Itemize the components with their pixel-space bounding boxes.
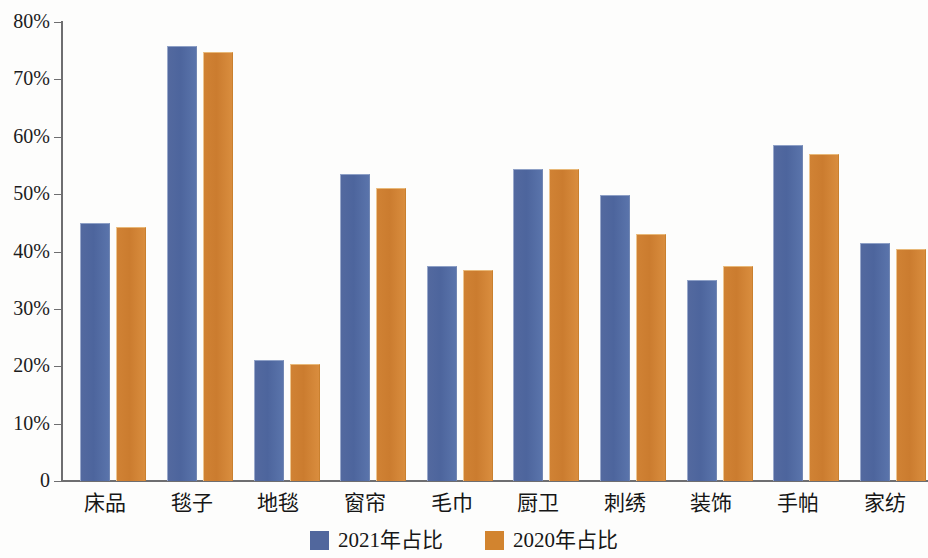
legend-item-2[interactable]: 2020年占比	[485, 528, 618, 552]
bar-series-2020[interactable]	[636, 234, 666, 481]
legend-item-1[interactable]: 2021年占比	[310, 528, 443, 552]
bar-series-2021[interactable]	[340, 174, 370, 481]
x-axis-label-8: 装饰	[668, 488, 755, 518]
plot-area	[62, 22, 928, 481]
x-axis-label-2: 毯子	[149, 488, 236, 518]
x-axis-label-7: 刺绣	[582, 488, 669, 518]
bar-series-2021[interactable]	[167, 46, 197, 481]
x-axis-label-10: 家纺	[841, 488, 928, 518]
legend-label: 2021年占比	[338, 528, 443, 552]
bar-group	[254, 22, 320, 481]
bar-group	[427, 22, 493, 481]
x-axis-label-9: 手帕	[755, 488, 842, 518]
legend-swatch-icon	[485, 531, 504, 550]
bar-series-2021[interactable]	[860, 243, 890, 481]
bar-group	[860, 22, 926, 481]
bar-series-2020[interactable]	[723, 266, 753, 481]
y-axis-tick-label: 40%	[0, 241, 50, 261]
x-axis-label-1: 床品	[62, 488, 149, 518]
x-axis-label-6: 厨卫	[495, 488, 582, 518]
bar-series-2020[interactable]	[549, 169, 579, 481]
bar-series-2020[interactable]	[203, 52, 233, 481]
x-axis-label-4: 窗帘	[322, 488, 409, 518]
y-axis-tick-label: 70%	[0, 68, 50, 88]
bar-group	[773, 22, 839, 481]
bar-series-2021[interactable]	[773, 145, 803, 481]
y-axis-tick-label: 0	[0, 470, 50, 490]
bar-group	[687, 22, 753, 481]
bar-group	[513, 22, 579, 481]
bar-series-2020[interactable]	[376, 188, 406, 481]
y-axis-tick-label: 20%	[0, 355, 50, 375]
bar-chart: 80%70%60%50%40%30%20%10%0 床品毯子地毯窗帘毛巾厨卫刺绣…	[0, 0, 928, 558]
bar-series-2021[interactable]	[513, 169, 543, 481]
chart-legend: 2021年占比2020年占比	[0, 528, 928, 552]
x-axis-label-5: 毛巾	[408, 488, 495, 518]
bar-series-2021[interactable]	[687, 280, 717, 481]
y-axis-tick-label: 30%	[0, 298, 50, 318]
y-axis-tick-label: 80%	[0, 11, 50, 31]
x-axis-label-3: 地毯	[235, 488, 322, 518]
bar-series-2020[interactable]	[463, 270, 493, 481]
bar-series-2020[interactable]	[896, 249, 926, 481]
bar-series-2020[interactable]	[116, 227, 146, 481]
bar-series-2021[interactable]	[254, 360, 284, 481]
bar-group	[80, 22, 146, 481]
bar-series-2020[interactable]	[290, 364, 320, 481]
y-axis-tick-label: 60%	[0, 126, 50, 146]
y-axis-tick-label: 50%	[0, 183, 50, 203]
bar-series-2021[interactable]	[600, 195, 630, 481]
y-axis-tick	[54, 481, 63, 482]
y-axis-tick-label: 10%	[0, 413, 50, 433]
bar-group	[167, 22, 233, 481]
bar-series-2020[interactable]	[809, 154, 839, 481]
legend-swatch-icon	[310, 531, 329, 550]
bar-group	[600, 22, 666, 481]
bar-series-2021[interactable]	[80, 223, 110, 481]
bar-group	[340, 22, 406, 481]
bar-series-2021[interactable]	[427, 266, 457, 481]
legend-label: 2020年占比	[513, 528, 618, 552]
